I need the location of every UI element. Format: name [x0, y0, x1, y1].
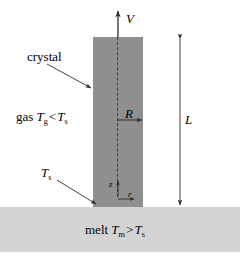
pull-velocity-label: V: [126, 12, 134, 25]
radius-symbol: R: [125, 106, 133, 121]
surface-temperature-label: Ts: [41, 166, 51, 179]
crystal-label: crystal: [27, 50, 62, 63]
crystal-leader-line: [47, 64, 91, 88]
melt-compare-operator: >: [125, 222, 134, 237]
pull-velocity-symbol: V: [126, 11, 134, 26]
axial-coordinate-symbol: z: [109, 179, 113, 189]
melt-temperature-symbol: T: [111, 222, 118, 237]
length-label: L: [185, 113, 192, 126]
gas-temperature-label: gas Tg<Ts: [16, 110, 68, 123]
melt-prefix-text: melt: [85, 222, 108, 237]
length-symbol: L: [185, 112, 192, 127]
gas-compare-rhs-symbol: T: [57, 109, 64, 124]
gas-temperature-symbol: T: [37, 109, 44, 124]
symmetry-axis-dashed-line: [117, 37, 118, 197]
surface-temperature-leader-line: [57, 180, 96, 204]
melt-temperature-label: melt Tm>Ts: [85, 223, 145, 236]
gas-compare-rhs-subscript: s: [65, 117, 68, 126]
gas-temperature-subscript: g: [44, 117, 48, 126]
crystal-region: [93, 37, 143, 207]
melt-compare-rhs-subscript: s: [142, 230, 145, 239]
radius-label: R: [125, 107, 133, 120]
radial-coordinate-symbol: r: [128, 189, 132, 199]
surface-temperature-subscript: s: [48, 173, 51, 182]
axial-coordinate-label: z: [109, 180, 113, 189]
crystal-growth-diagram: crystal gas Tg<Ts Ts V R L z r melt Tm>T…: [0, 0, 240, 261]
radial-coordinate-label: r: [128, 190, 132, 199]
gas-prefix-text: gas: [16, 109, 33, 124]
melt-temperature-subscript: m: [119, 230, 125, 239]
melt-compare-rhs-symbol: T: [134, 222, 141, 237]
gas-compare-operator: <: [48, 109, 57, 124]
